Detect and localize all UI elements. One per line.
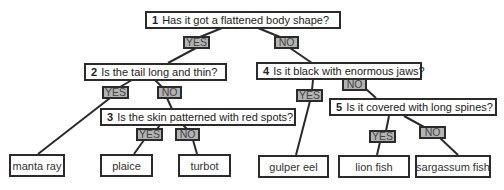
q2-yes-badge: YES	[102, 86, 129, 99]
question-number: 5	[336, 101, 342, 113]
edge-q5-yes	[386, 116, 389, 131]
question-text: Is the skin patterned with red spots?	[117, 111, 293, 123]
question-number: 2	[91, 66, 97, 78]
q4-yes-badge: YES	[296, 89, 323, 102]
edge-yes-manta	[38, 98, 110, 154]
edge-yes-lionfish	[377, 142, 380, 155]
question-number: 4	[263, 65, 269, 77]
question-text: Is it covered with long spines?	[346, 101, 493, 113]
leaf-gulper-eel: gulper eel	[258, 155, 329, 178]
edge-no-q4	[290, 48, 312, 63]
q3-yes-badge: YES	[136, 128, 163, 141]
edge-yes-plaice	[134, 140, 144, 154]
edge-no-turbot	[193, 140, 197, 154]
q2-no-badge: NO	[157, 86, 182, 99]
edge-no-q5	[366, 89, 376, 98]
question-5-box: 5 Is it covered with long spines?	[329, 98, 497, 116]
q5-no-badge: NO	[419, 126, 446, 139]
question-text: Is the tail long and thin?	[101, 66, 217, 78]
leaf-lion-fish: lion fish	[338, 155, 410, 178]
question-2-box: 2 Is the tail long and thin?	[84, 63, 227, 81]
edge-yes-q2	[168, 48, 196, 63]
q3-no-badge: NO	[175, 128, 200, 141]
question-text: Is it black with enormous jaws?	[273, 65, 425, 77]
leaf-turbot: turbot	[178, 154, 231, 177]
leaf-sargassum-fish: sargassum fish	[415, 155, 491, 178]
question-number: 1	[152, 14, 158, 26]
question-4-box: 4 Is it black with enormous jaws?	[256, 62, 422, 80]
edge-no-sargassum	[440, 138, 458, 155]
leaf-plaice: plaice	[100, 154, 153, 177]
edge-yes-gulper	[296, 101, 310, 155]
question-text: Has it got a flattened body shape?	[162, 14, 329, 26]
question-number: 3	[107, 111, 113, 123]
q1-no-badge: NO	[274, 36, 299, 49]
q4-no-badge: NO	[342, 78, 367, 91]
leaf-manta-ray: manta ray	[9, 154, 65, 177]
question-3-box: 3 Is the skin patterned with red spots?	[100, 108, 296, 126]
question-1-box: 1 Has it got a flattened body shape?	[145, 11, 341, 29]
q1-yes-badge: YES	[183, 36, 210, 49]
q5-yes-badge: YES	[369, 130, 396, 143]
